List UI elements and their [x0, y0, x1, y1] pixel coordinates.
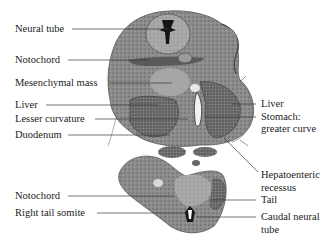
upper-section	[108, 11, 254, 147]
label-duodenum: Duodenum	[15, 129, 62, 140]
label-lesser-curvature: Lesser curvature	[15, 113, 85, 124]
label-liver-left: Liver	[15, 99, 38, 110]
label-liver-right: Liver	[261, 98, 284, 109]
diagram-canvas: Neural tube Notochord Mesenchymal mass L…	[0, 0, 334, 244]
label-hepatoenteric-line2: recessus	[261, 182, 296, 193]
label-right-tail-somite: Right tail somite	[15, 207, 85, 218]
label-notochord-upper: Notochord	[15, 54, 60, 65]
label-caudal-neural-line2: tube	[261, 224, 279, 235]
tail-section	[119, 156, 227, 233]
label-neural-tube: Neural tube	[15, 23, 64, 34]
label-caudal-neural-line1: Caudal neural	[261, 211, 320, 222]
label-hepatoenteric-line1: Hepatoenteric	[261, 169, 320, 180]
label-stomach-line1: Stomach:	[261, 111, 301, 122]
label-tail: Tail	[261, 194, 277, 205]
label-stomach-line2: greater curve	[261, 123, 316, 134]
label-notochord-lower: Notochord	[15, 190, 60, 201]
label-mesenchymal-mass: Mesenchymal mass	[15, 77, 98, 88]
